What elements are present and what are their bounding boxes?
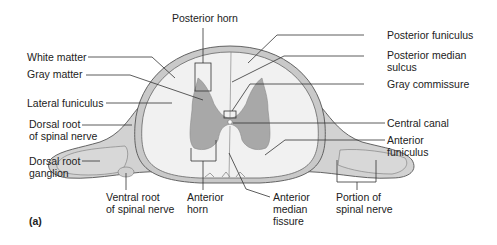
label-posterior-median-sulcus: Posterior median sulcus	[387, 49, 469, 73]
label-central-canal: Central canal	[387, 117, 449, 129]
label-anterior-median-fissure: Anterior median fissure	[273, 191, 313, 227]
label-posterior-funiculus: Posterior funiculus	[387, 29, 473, 41]
spinal-cord-cross-section-diagram: Posterior horn White matter Gray matter …	[0, 0, 497, 245]
label-lateral-funiculus: Lateral funiculus	[27, 97, 103, 109]
label-portion-of-spinal-nerve: Portion of spinal nerve	[336, 191, 393, 215]
label-gray-commissure: Gray commissure	[387, 78, 469, 90]
label-dorsal-root-spinal-nerve: Dorsal root of spinal nerve	[29, 118, 97, 142]
label-white-matter: White matter	[27, 51, 87, 63]
label-anterior-horn: Anterior horn	[187, 191, 227, 215]
label-ventral-root-spinal-nerve: Ventral root of spinal nerve	[106, 191, 174, 215]
label-gray-matter: Gray matter	[27, 68, 83, 80]
central-canal	[228, 120, 232, 124]
label-posterior-horn: Posterior horn	[172, 12, 238, 24]
panel-label: (a)	[29, 215, 42, 227]
label-anterior-funiculus: Anterior funiculus	[387, 134, 428, 158]
